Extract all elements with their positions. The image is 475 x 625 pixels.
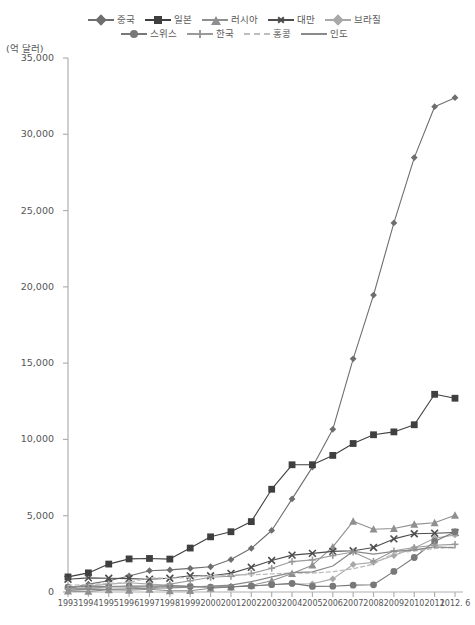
- data-point: [289, 496, 296, 503]
- data-point: [329, 583, 336, 590]
- data-point: [228, 528, 235, 535]
- data-point: [228, 556, 235, 563]
- y-tick-label: 5,000: [8, 510, 54, 521]
- y-tick-label: 15,000: [8, 357, 54, 368]
- data-point: [370, 581, 377, 588]
- series-line: [68, 547, 455, 591]
- series-중국: [65, 94, 459, 592]
- data-point: [451, 511, 459, 518]
- data-point: [146, 567, 153, 574]
- data-point: [187, 565, 194, 572]
- data-point: [390, 428, 397, 435]
- data-point: [309, 583, 316, 590]
- data-point: [452, 94, 459, 101]
- series-line: [68, 394, 455, 577]
- data-point: [166, 566, 173, 573]
- y-tick-label: 20,000: [8, 281, 54, 292]
- data-point: [268, 581, 275, 588]
- data-point: [329, 426, 336, 433]
- data-point: [207, 584, 214, 591]
- y-tick-label: 30,000: [8, 128, 54, 139]
- y-tick-label: 10,000: [8, 433, 54, 444]
- data-point: [329, 576, 336, 583]
- series-line: [68, 98, 455, 589]
- data-point: [248, 582, 255, 589]
- data-point: [187, 545, 194, 552]
- data-point: [411, 154, 418, 161]
- data-point: [370, 558, 377, 565]
- data-point: [289, 558, 296, 565]
- y-tick-label: 35,000: [8, 52, 54, 63]
- data-point: [350, 440, 357, 447]
- data-point: [390, 568, 397, 575]
- data-point: [268, 557, 275, 564]
- x-tick-label: 2012. 6: [435, 599, 475, 608]
- y-tick-label: 0: [8, 586, 54, 597]
- data-point: [390, 220, 397, 227]
- data-point: [309, 556, 316, 563]
- data-point: [289, 580, 296, 587]
- data-point: [207, 563, 214, 570]
- data-point: [166, 556, 173, 563]
- series-한국: [65, 541, 459, 592]
- data-point: [105, 561, 112, 568]
- data-point: [248, 570, 255, 577]
- data-point: [411, 421, 418, 428]
- data-point: [370, 431, 377, 438]
- series-브라질: [65, 532, 459, 591]
- series-대만: [65, 529, 459, 583]
- data-point: [289, 461, 296, 468]
- data-point: [268, 565, 275, 572]
- data-point: [350, 561, 357, 568]
- series-line: [68, 515, 455, 591]
- data-point: [126, 556, 133, 563]
- data-point: [207, 533, 214, 540]
- data-point: [309, 461, 316, 468]
- data-point: [431, 103, 438, 110]
- data-point: [349, 517, 357, 524]
- data-point: [350, 582, 357, 589]
- data-point: [350, 355, 357, 362]
- data-point: [248, 564, 255, 571]
- data-point: [431, 391, 438, 398]
- data-point: [370, 292, 377, 299]
- data-point: [452, 395, 459, 402]
- data-point: [411, 554, 418, 561]
- data-point: [329, 452, 336, 459]
- data-point: [146, 555, 153, 562]
- data-point: [452, 528, 459, 535]
- data-point: [248, 518, 255, 525]
- data-point: [390, 535, 397, 542]
- series-인도: [68, 547, 455, 591]
- y-tick-label: 25,000: [8, 205, 54, 216]
- data-point: [268, 486, 275, 493]
